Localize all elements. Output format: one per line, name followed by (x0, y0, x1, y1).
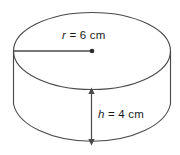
cylinder-drawing (0, 0, 180, 155)
height-variable: h (98, 108, 105, 120)
radius-value: 6 cm (80, 29, 106, 41)
height-equals: = (108, 108, 115, 120)
height-dimension-arrow (88, 88, 94, 146)
arrowhead-down-icon (88, 139, 94, 146)
center-point-dot (90, 49, 95, 54)
height-value: 4 cm (118, 108, 144, 120)
radius-label: r = 6 cm (62, 29, 106, 41)
height-label: h = 4 cm (98, 108, 144, 120)
cylinder-figure: r = 6 cm h = 4 cm (0, 0, 180, 155)
arrowhead-up-icon (88, 88, 94, 95)
